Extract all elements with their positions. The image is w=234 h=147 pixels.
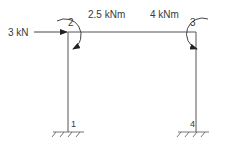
- portal-frame-diagram: 3 kN 2.5 kNm 4 kNm 2 3 1 4: [0, 0, 234, 147]
- moment-label-node-2: 2.5 kNm: [88, 9, 125, 20]
- frame-members: [68, 32, 196, 132]
- moment-label-node-3: 4 kNm: [150, 9, 179, 20]
- fixed-support-icon: [52, 132, 84, 137]
- force-label: 3 kN: [8, 27, 29, 38]
- node-label-2: 2: [68, 17, 74, 28]
- node-label-4: 4: [190, 119, 195, 130]
- node-label-3: 3: [190, 17, 196, 28]
- node-label-1: 1: [71, 119, 76, 130]
- frame-drawing: [0, 0, 234, 147]
- fixed-support-icon: [177, 132, 209, 137]
